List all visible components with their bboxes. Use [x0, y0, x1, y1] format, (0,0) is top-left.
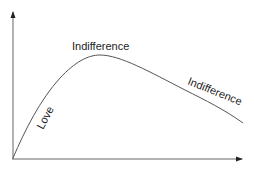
label-peak: Indifference: [72, 40, 129, 52]
diagram-canvas: Love Indifference Indifference: [0, 0, 254, 173]
label-tail: Indifference: [186, 75, 244, 108]
